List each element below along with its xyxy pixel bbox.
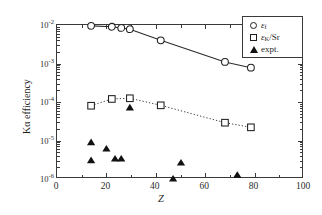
- data-point: [108, 23, 115, 30]
- x-tick-label-20: 20: [101, 181, 111, 191]
- data-point: [118, 25, 125, 32]
- data-point: [87, 139, 95, 146]
- data-point: [169, 175, 177, 182]
- y-tick-label-1e-6: 10-6: [40, 172, 54, 184]
- data-point: [117, 155, 125, 162]
- data-point: [222, 119, 229, 126]
- y-tick-label-1e-4: 10-4: [40, 95, 54, 107]
- legend-label-epsilon-f: εf: [261, 21, 267, 30]
- data-point: [88, 102, 95, 109]
- data-point: [157, 102, 164, 109]
- triangle-filled-icon: [246, 46, 261, 53]
- y-axis-title: Kα efficiency: [21, 47, 32, 167]
- square-open-icon: [246, 34, 261, 41]
- x-tick-label-40: 40: [150, 181, 160, 191]
- data-point: [248, 124, 255, 131]
- data-point: [222, 59, 229, 66]
- legend-label-expt: expt.: [261, 45, 279, 54]
- x-tick-label-60: 60: [199, 181, 209, 191]
- y-tick-label-1e-2: 10-2: [40, 18, 54, 30]
- data-point: [126, 104, 134, 111]
- data-point: [248, 64, 255, 71]
- data-point: [233, 171, 241, 178]
- data-point: [109, 96, 116, 103]
- data-point: [88, 22, 95, 29]
- legend-item-epsilon-k-sr: εK/Sr: [246, 31, 299, 43]
- circle-open-icon: [246, 22, 261, 29]
- data-point: [177, 159, 185, 166]
- legend-box: εf εK/Sr expt.: [242, 16, 303, 58]
- x-axis-title: Z: [0, 193, 322, 204]
- y-tick-label-1e-3: 10-3: [40, 57, 54, 69]
- legend-item-expt: expt.: [246, 43, 299, 55]
- data-point: [127, 95, 134, 102]
- x-tick-label-0: 0: [54, 181, 59, 191]
- legend-item-epsilon-f: εf: [246, 19, 299, 31]
- data-point: [87, 157, 95, 164]
- x-tick-label-80: 80: [249, 181, 259, 191]
- data-point: [126, 26, 133, 33]
- data-point: [102, 145, 110, 152]
- data-point: [157, 37, 164, 44]
- x-tick-label-100: 100: [296, 181, 310, 191]
- legend-label-epsilon-k-sr: εK/Sr: [261, 33, 280, 42]
- figure-chart-ka-efficiency: Kα efficiency 10-2 10-3 10-4 10-5 10-6 0…: [0, 0, 322, 215]
- y-tick-label-1e-5: 10-5: [40, 134, 54, 146]
